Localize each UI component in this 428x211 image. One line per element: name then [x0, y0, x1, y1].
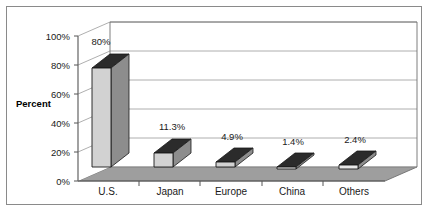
- y-tick-label-80: 80%: [51, 60, 71, 71]
- category-label-europe: Europe: [215, 186, 248, 197]
- data-label-japan: 11.3%: [159, 121, 186, 132]
- bar-us[interactable]: [92, 54, 129, 167]
- bar-europe-front: [216, 162, 235, 167]
- data-label-europe: 4.9%: [221, 131, 243, 142]
- y-tick-label-60: 60%: [51, 89, 71, 100]
- y-tick-label-100: 100%: [46, 31, 71, 42]
- category-label-others: Others: [339, 186, 369, 197]
- category-label-us: U.S.: [98, 186, 117, 197]
- bar-chart-3d: 100% 80% 60% 40% 20% 0% Percent: [0, 0, 428, 211]
- bar-japan-front: [154, 153, 173, 167]
- data-label-others: 2.4%: [344, 134, 366, 145]
- bar-us-side: [111, 54, 129, 167]
- y-tick-label-0: 0%: [56, 176, 70, 187]
- bar-china-front: [277, 167, 296, 169]
- data-label-us: 80%: [91, 36, 111, 47]
- bar-others-front: [339, 165, 358, 169]
- bar-us-front: [92, 68, 111, 167]
- plot-floor: [78, 167, 417, 181]
- y-tick-label-40: 40%: [51, 118, 71, 129]
- data-label-china: 1.4%: [282, 136, 304, 147]
- y-tick-label-20: 20%: [51, 147, 71, 158]
- category-label-china: China: [279, 186, 306, 197]
- y-axis-title: Percent: [16, 98, 52, 109]
- category-label-japan: Japan: [156, 186, 183, 197]
- plot-back-wall: [110, 22, 417, 167]
